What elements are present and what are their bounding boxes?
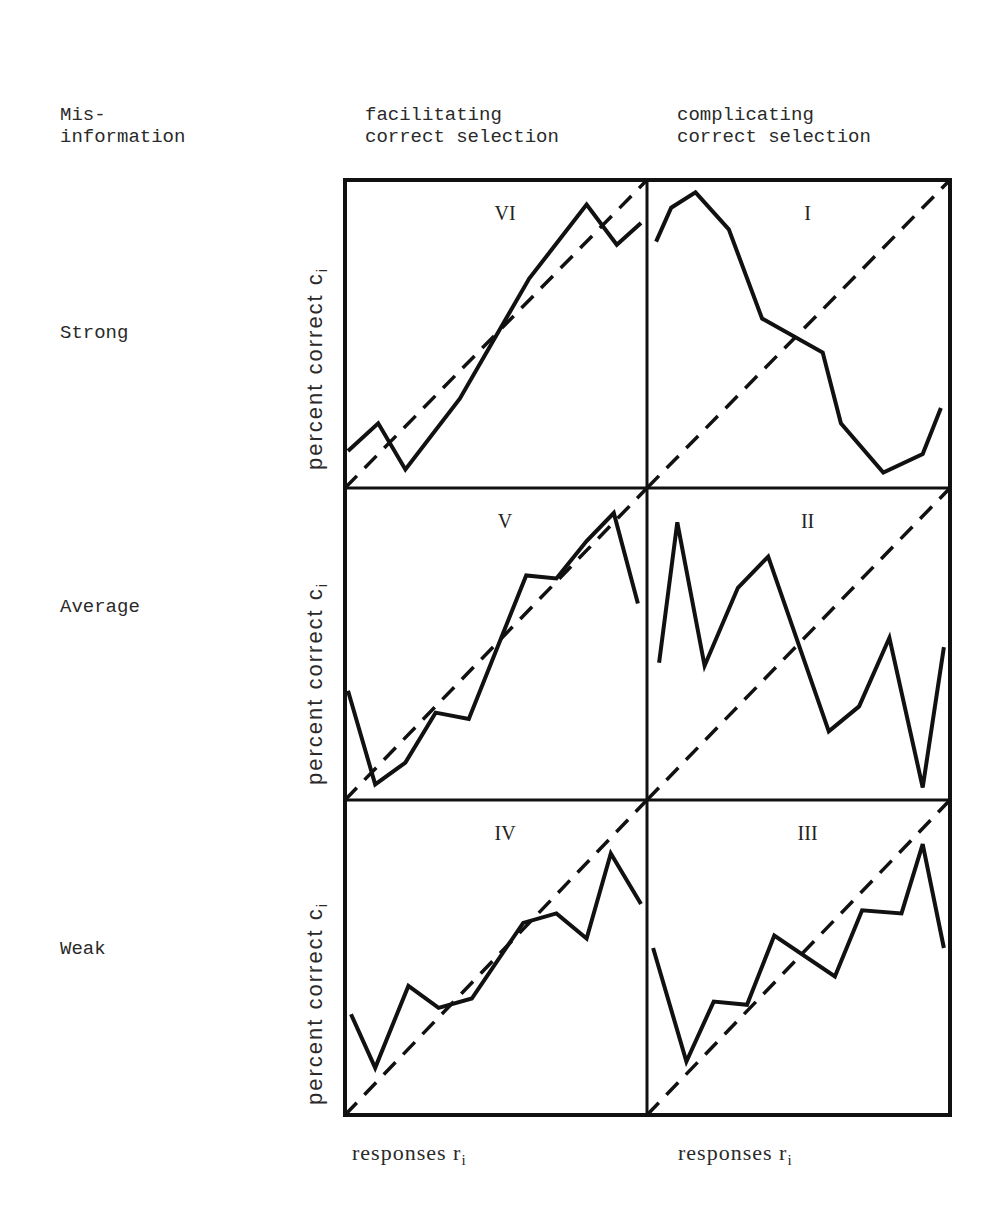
- diagonal-reference-line: [345, 488, 647, 800]
- diagonal-reference-line: [345, 800, 647, 1115]
- diagonal-reference-line: [647, 800, 950, 1115]
- panel-vi: VI: [345, 180, 647, 488]
- diagonal-reference-line: [647, 180, 950, 488]
- panel-numeral: V: [498, 510, 513, 532]
- observed-line: [653, 844, 944, 1061]
- panel-numeral: I: [804, 202, 811, 224]
- panel-iv: IV: [345, 800, 647, 1115]
- panel-ii: II: [647, 488, 950, 800]
- panel-i: I: [647, 180, 950, 488]
- panel-numeral: III: [798, 822, 818, 844]
- observed-line: [659, 522, 944, 787]
- panel-v: V: [345, 488, 647, 800]
- observed-line: [656, 192, 941, 472]
- grid-frame: [345, 180, 950, 1115]
- panel-numeral: VI: [495, 202, 516, 224]
- panel-numeral: II: [801, 510, 814, 532]
- observed-line: [351, 854, 641, 1068]
- panel-grid: VIIVIIIVIII: [0, 0, 1003, 1219]
- panel-numeral: IV: [495, 822, 517, 844]
- panel-iii: III: [647, 800, 950, 1115]
